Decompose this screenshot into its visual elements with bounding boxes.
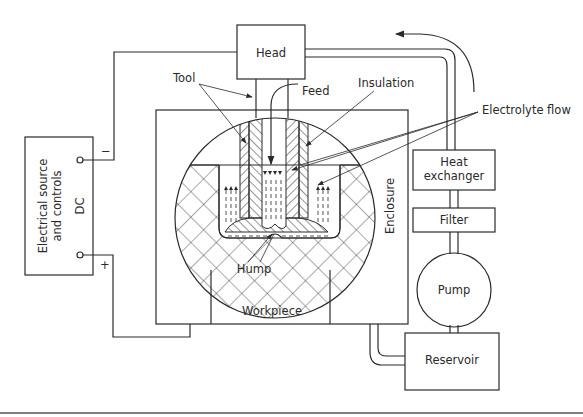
svg-text:Heat: Heat bbox=[440, 155, 468, 169]
positive-terminal bbox=[77, 252, 83, 258]
head-box: Head bbox=[237, 25, 305, 79]
pump-circle: Pump bbox=[417, 253, 491, 327]
electrolyte-flow-label: Electrolyte flow bbox=[482, 103, 571, 117]
svg-text:−: − bbox=[101, 144, 111, 158]
filter-box: Filter bbox=[413, 208, 495, 232]
feed-label: Feed bbox=[302, 84, 329, 98]
ecm-diagram: Head Enclosure Workpiece bbox=[0, 0, 583, 417]
negative-terminal bbox=[77, 157, 83, 163]
insulation-label: Insulation bbox=[358, 76, 414, 90]
svg-text:DC: DC bbox=[73, 198, 87, 215]
svg-text:Electrical source: Electrical source bbox=[36, 159, 50, 254]
svg-text:Filter: Filter bbox=[440, 213, 469, 227]
head-label: Head bbox=[256, 46, 286, 60]
svg-text:and controls: and controls bbox=[50, 170, 64, 241]
svg-text:Pump: Pump bbox=[438, 283, 471, 297]
heat-exchanger-box: Heat exchanger bbox=[413, 150, 495, 190]
reservoir-box: Reservoir bbox=[405, 333, 499, 390]
electrical-source-box: Electrical source and controls DC bbox=[25, 137, 93, 275]
svg-text:Reservoir: Reservoir bbox=[425, 353, 479, 367]
svg-text:exchanger: exchanger bbox=[424, 169, 485, 183]
tool-label: Tool bbox=[172, 71, 195, 85]
enclosure-label: Enclosure bbox=[383, 178, 397, 234]
hump-label: Hump bbox=[237, 262, 271, 276]
svg-text:+: + bbox=[100, 258, 110, 272]
